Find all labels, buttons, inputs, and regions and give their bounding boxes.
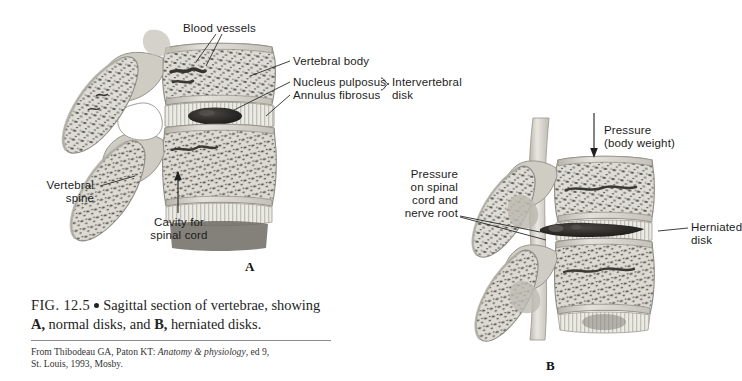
caption-label-a: A, — [31, 316, 45, 332]
figure-source: From Thibodeau GA, Paton KT: Anatomy & p… — [31, 346, 371, 370]
label-herniated-disk-line2: disk — [691, 234, 712, 248]
soft-tissue-b — [582, 314, 626, 330]
panel-b-artwork — [473, 118, 655, 341]
label-spinal-pressure-line3: cord and — [378, 194, 458, 208]
vertebra-lower-body-b — [555, 238, 655, 314]
label-vertebral-spine-line2: spine — [12, 192, 94, 206]
label-intervertebral-disk-line1: Intervertebral — [392, 76, 462, 90]
vertebra-lower-body-a — [163, 124, 277, 206]
label-vertebral-spine-line1: Vertebral — [12, 179, 94, 193]
label-spinal-pressure-line2: on spinal — [378, 181, 458, 195]
caption-bullet-icon — [94, 303, 99, 308]
vertebra-upper-body-b — [555, 156, 655, 222]
panel-letter-a: A — [245, 259, 254, 275]
caption-main-text: Sagittal section of vertebrae, showing — [103, 297, 320, 313]
figure-number: FIG. 12.5 — [31, 297, 90, 313]
caption-b-text: herniated disks. — [167, 316, 261, 332]
soft-tissue-a — [143, 30, 170, 56]
source-edition: , ed 9, — [246, 346, 269, 357]
caption-label-b: B, — [154, 316, 167, 332]
label-nucleus-pulposus: Nucleus pulposus — [293, 76, 386, 90]
source-title: Anatomy & physiology — [158, 346, 246, 357]
label-intervertebral-disk-line2: disk — [392, 89, 413, 103]
label-cavity-line2: spinal cord — [138, 229, 220, 243]
figure-caption: FIG. 12.5Sagittal section of vertebrae, … — [31, 296, 361, 334]
label-pressure-line1: Pressure — [604, 124, 651, 138]
caption-divider — [31, 340, 331, 341]
label-annulus-fibrosus: Annulus fibrosus — [293, 89, 380, 103]
vertebra-upper-body-a — [163, 43, 276, 105]
label-spinal-pressure-line4: nerve root — [378, 207, 458, 221]
label-herniated-disk-line1: Herniated — [691, 221, 742, 235]
source-publisher: St. Louis, 1993, Mosby. — [31, 358, 123, 369]
label-cavity-line1: Cavity for — [138, 216, 220, 230]
panel-letter-b: B — [546, 358, 555, 374]
pressure-arrow-b — [590, 113, 598, 158]
label-spinal-pressure-line1: Pressure — [378, 168, 458, 182]
label-blood-vessels: Blood vessels — [183, 22, 256, 36]
label-pressure-line2: (body weight) — [604, 137, 675, 151]
label-vertebral-body: Vertebral body — [293, 55, 369, 69]
caption-a-text: normal disks, and — [45, 316, 154, 332]
source-prefix: From Thibodeau GA, Paton KT: — [31, 346, 158, 357]
